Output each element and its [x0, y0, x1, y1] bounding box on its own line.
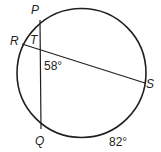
- label-s: S: [146, 77, 154, 91]
- arc-label: 82°: [109, 135, 127, 149]
- circle: [17, 9, 146, 138]
- label-t: T: [30, 33, 39, 47]
- label-q: Q: [35, 134, 44, 148]
- label-p: P: [31, 3, 39, 17]
- chord-pq: [40, 20, 41, 129]
- angle-label: 58°: [44, 59, 62, 73]
- label-r: R: [10, 34, 19, 48]
- diagram-canvas: P R T 58° S Q 82°: [0, 0, 161, 152]
